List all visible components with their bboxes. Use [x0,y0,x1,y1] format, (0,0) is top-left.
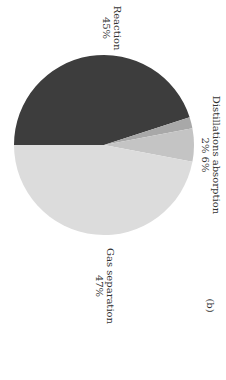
label-distillations-name: Distillations absorption [211,90,222,220]
pie-slices [14,55,194,235]
label-reaction: Reaction 45% [101,0,123,58]
label-gas-separation-name: Gas separation [105,246,116,326]
label-reaction-name: Reaction [112,0,123,58]
label-gas-separation: Gas separation 47% [94,246,116,326]
panel-label: (b) [205,296,216,316]
pie-slice-gas-separation [14,145,192,235]
label-reaction-pct: 45% [101,0,112,58]
label-distillations-absorption: Distillations absorption 2% 6% [200,90,222,220]
label-distillations-pct: 2% 6% [200,90,211,220]
label-gas-separation-pct: 47% [94,246,105,326]
